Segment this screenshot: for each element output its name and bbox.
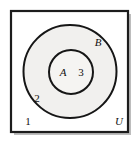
venn-diagram-canvas: A B U 1 2 3	[0, 0, 138, 142]
region-label-1: 1	[25, 115, 31, 127]
venn-diagram-figure: A B U 1 2 3	[0, 0, 138, 142]
set-a-label: A	[59, 66, 67, 78]
region-label-3: 3	[78, 66, 84, 78]
set-a-circle	[49, 50, 93, 94]
region-label-2: 2	[34, 92, 40, 104]
universal-set-label: U	[115, 115, 124, 127]
set-b-label: B	[95, 36, 102, 48]
